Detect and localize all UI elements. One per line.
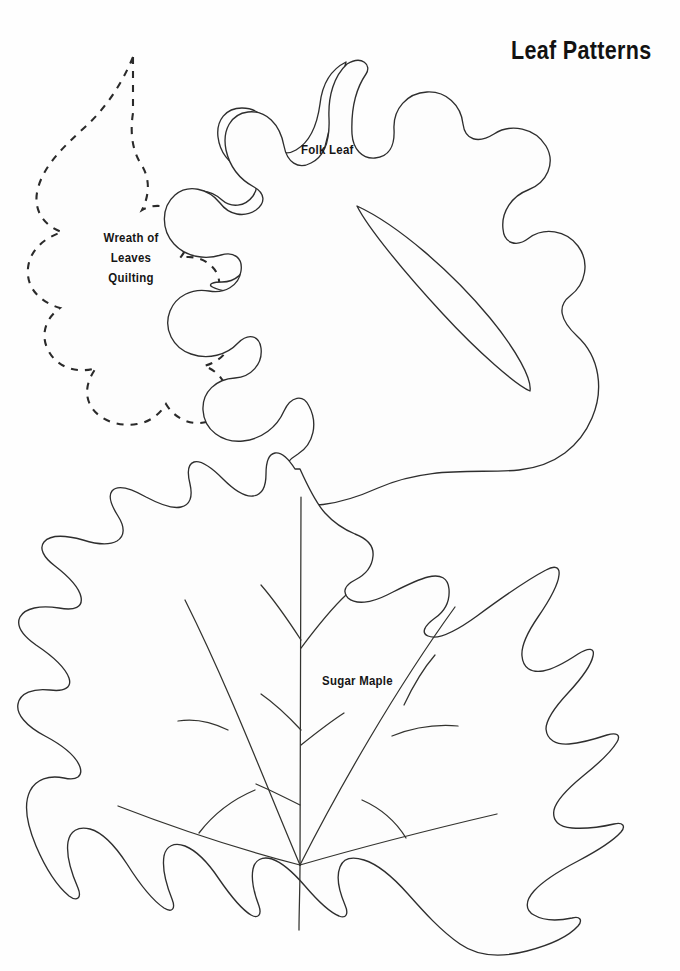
leaf-patterns-sheet: Leaf Patterns Wreath of Leaves Quilting … — [0, 0, 680, 971]
label-wreath-of-leaves-quilting: Wreath of Leaves Quilting — [79, 228, 183, 288]
label-wreath-line-3: Quilting — [79, 268, 183, 288]
label-folk-leaf: Folk Leaf — [301, 142, 354, 157]
label-wreath-line-1: Wreath of — [79, 228, 183, 248]
label-sugar-maple: Sugar Maple — [322, 673, 393, 688]
sugar-maple-leaf — [18, 453, 624, 955]
sugar-maple-outline — [18, 453, 624, 955]
label-wreath-line-2: Leaves — [79, 248, 183, 268]
page-title: Leaf Patterns — [511, 36, 652, 65]
